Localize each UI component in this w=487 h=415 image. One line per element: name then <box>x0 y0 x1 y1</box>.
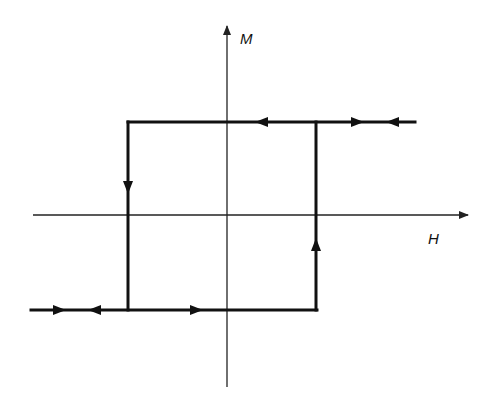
arrow-left-icon <box>386 117 399 127</box>
direction-arrows <box>53 117 399 315</box>
arrow-left-icon <box>88 305 101 315</box>
hysteresis-diagram: M H <box>0 0 487 415</box>
arrow-right-icon <box>190 305 203 315</box>
arrow-right-icon <box>351 117 364 127</box>
arrow-right-icon <box>53 305 66 315</box>
arrow-left-icon <box>255 117 268 127</box>
arrow-down-icon <box>123 181 133 194</box>
arrow-up-icon <box>311 238 321 251</box>
hysteresis-loop <box>31 122 415 310</box>
m-axis-label: M <box>240 30 253 47</box>
h-axis-label: H <box>428 230 439 247</box>
